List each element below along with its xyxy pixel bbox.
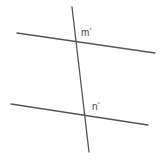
diagram-canvas: m° n° bbox=[0, 0, 161, 161]
angle-m-variable: m bbox=[81, 27, 89, 38]
degree-symbol: ° bbox=[98, 101, 101, 107]
angle-label-n: n° bbox=[92, 101, 101, 112]
angle-label-m: m° bbox=[81, 27, 92, 38]
bottom-parallel-line bbox=[11, 104, 148, 125]
degree-symbol: ° bbox=[89, 27, 92, 33]
